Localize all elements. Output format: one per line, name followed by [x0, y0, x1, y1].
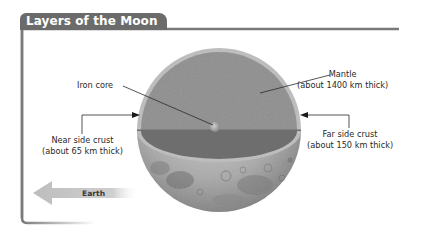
label-iron-core: Iron core: [77, 80, 113, 91]
moon-layers-diagram: Layers of the Moon Iron core Mantle (abo…: [0, 0, 426, 240]
label-far-side-crust: Far side crust (about 150 km thick): [307, 129, 393, 151]
iron-core: [210, 122, 220, 132]
label-mantle-detail: (about 1400 km thick): [297, 80, 388, 91]
label-near-side-crust-name: Near side crust: [42, 135, 123, 146]
label-iron-core-name: Iron core: [77, 80, 113, 91]
label-near-side-crust: Near side crust (about 65 km thick): [42, 135, 123, 157]
label-far-side-crust-detail: (about 150 km thick): [307, 140, 393, 151]
label-mantle: Mantle (about 1400 km thick): [297, 69, 388, 91]
label-mantle-name: Mantle: [297, 69, 388, 80]
label-near-side-crust-detail: (about 65 km thick): [42, 146, 123, 157]
diagram-graphics: [0, 0, 426, 240]
label-far-side-crust-name: Far side crust: [307, 129, 393, 140]
diagram-title: Layers of the Moon: [20, 13, 167, 30]
earth-arrow-label: Earth: [82, 188, 105, 199]
